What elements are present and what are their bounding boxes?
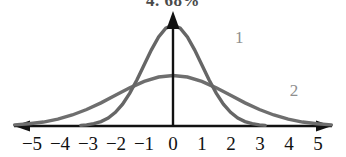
- curve-2-label: 2: [290, 81, 299, 100]
- x-tick-label-1: 1: [197, 133, 207, 154]
- x-tick-label-minus5: −5: [22, 133, 42, 154]
- x-tick-label-2: 2: [226, 133, 236, 154]
- x-tick-label-minus2: −2: [106, 133, 126, 154]
- x-tick-label-minus4: −4: [50, 133, 71, 154]
- x-tick-label-3: 3: [255, 133, 265, 154]
- curve-1-label: 1: [235, 28, 244, 47]
- x-tick-label-0: 0: [168, 133, 178, 154]
- normal-distribution-figure: 4. 68% 1 2 −5 −4 −3 −2 −1 0 1 2 3 4 5: [0, 0, 346, 157]
- y-axis: [167, 11, 180, 126]
- x-tick-label-4: 4: [284, 133, 294, 154]
- arrow-up-icon: [167, 11, 180, 29]
- plot-area: 1 2 −5 −4 −3 −2 −1 0 1 2 3 4 5: [0, 0, 346, 157]
- x-tick-label-minus1: −1: [134, 133, 154, 154]
- x-tick-label-minus3: −3: [78, 133, 98, 154]
- x-tick-label-5: 5: [313, 133, 323, 154]
